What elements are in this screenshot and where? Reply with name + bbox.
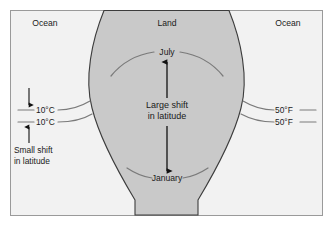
small-shift-label-line1: Small shift — [14, 145, 53, 155]
ocean-right-label: Ocean — [275, 18, 301, 28]
large-shift-label-line2: in latitude — [148, 111, 187, 121]
figure-container: Ocean Ocean Land July January — [0, 0, 333, 230]
isotherm-left-lower-label: 10°C — [36, 117, 55, 127]
land-label: Land — [157, 18, 176, 28]
ocean-left-label: Ocean — [32, 18, 58, 28]
large-shift-label-line1: Large shift — [146, 100, 189, 110]
isotherm-shift-diagram: Ocean Ocean Land July January — [0, 0, 333, 230]
july-label: July — [159, 47, 175, 57]
isotherm-right-lower-label: 50°F — [275, 117, 293, 127]
january-label: January — [152, 173, 183, 183]
small-shift-label-line2: in latitude — [14, 156, 50, 166]
isotherm-right-upper-label: 50°F — [275, 105, 293, 115]
isotherm-left-upper-label: 10°C — [36, 105, 55, 115]
